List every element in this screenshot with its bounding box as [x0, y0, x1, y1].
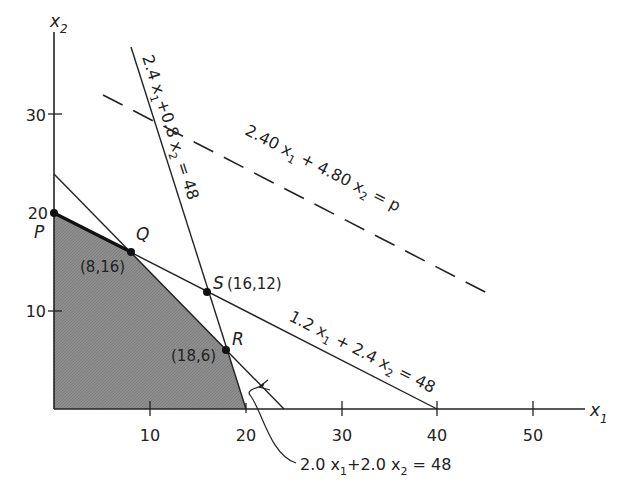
label-p: P [34, 222, 45, 242]
point-s [203, 288, 211, 296]
label-q: Q [136, 224, 149, 244]
tick-x-30: 30 [332, 426, 352, 445]
y-axis-label: x2 [49, 11, 68, 36]
callout-arrow [249, 384, 296, 463]
lp-graph: 10 20 30 40 50 10 20 30 x1 x2 P Q (8,16)… [0, 0, 629, 493]
equation-label-3: 2.0 x1+2.0 x2 = 48 [300, 455, 451, 478]
label-s: S [213, 273, 224, 293]
tick-x-20: 20 [236, 426, 256, 445]
coord-r: (18,6) [171, 347, 216, 365]
tick-y-30: 30 [26, 106, 46, 125]
equation-label-2: 1.2 x1 + 2.4 x2 = 48 [284, 307, 438, 401]
point-r [222, 346, 230, 354]
label-r: R [232, 329, 244, 349]
objective-label: 2.40 x1 + 4.80 x2 = p [240, 121, 403, 219]
point-q [127, 248, 135, 256]
tick-x-40: 40 [427, 426, 447, 445]
tick-x-10: 10 [140, 426, 160, 445]
x-axis-label: x1 [589, 400, 608, 426]
equation-label-1: 2.4 x1+0.8 x2 = 48 [134, 52, 203, 203]
coord-q: (8,16) [80, 258, 125, 276]
tick-y-10: 10 [26, 302, 46, 321]
arrowhead-icon [259, 380, 270, 390]
tick-x-50: 50 [523, 426, 543, 445]
tick-y-20: 20 [28, 204, 48, 223]
point-p [50, 209, 58, 217]
feasible-region [54, 213, 246, 409]
coord-s: (16,12) [227, 275, 282, 293]
